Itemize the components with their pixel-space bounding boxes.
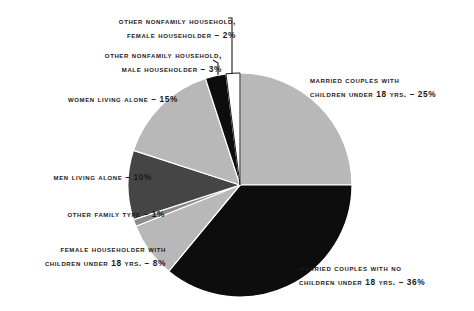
slice-label-nonfamily-female: Other nonfamily household, female househ… — [0, 15, 236, 42]
slice-label-other-family-line1: Other family type – 1% — [0, 208, 165, 222]
slice-label-nonfamily-male: Other nonfamily household, male househol… — [0, 49, 222, 76]
slice-label-women-alone: Women living alone – 15% — [0, 93, 178, 107]
slice-label-female-children-line2: children under 18 yrs. – 8% — [0, 257, 166, 271]
pie-chart-figure: Other nonfamily household, female househ… — [0, 0, 474, 311]
slice-label-married-children-line1: Married couples with — [310, 74, 474, 88]
slice-label-nonfamily-male-line1: Other nonfamily household, — [0, 49, 222, 63]
slice-label-men-alone-line1: Men living alone – 10% — [0, 171, 152, 185]
slice-label-married-nochild: Married couples with no children under 1… — [299, 262, 474, 289]
slice-label-female-children: Female householder with children under 1… — [0, 243, 166, 270]
slice-label-women-alone-line1: Women living alone – 15% — [0, 93, 178, 107]
slice-label-nonfamily-female-line1: Other nonfamily household, — [0, 15, 236, 29]
slice-label-nonfamily-female-line2: female householder – 2% — [0, 29, 236, 43]
slice-label-married-nochild-line1: Married couples with no — [299, 262, 474, 276]
slice-label-other-family: Other family type – 1% — [0, 208, 165, 222]
slice-label-married-nochild-line2: children under 18 yrs. – 36% — [299, 276, 474, 290]
slice-label-married-children: Married couples with children under 18 y… — [310, 74, 474, 101]
slice-label-nonfamily-male-line2: male householder – 3% — [0, 63, 222, 77]
slice-label-men-alone: Men living alone – 10% — [0, 171, 152, 185]
slice-label-married-children-line2: children under 18 yrs. – 25% — [310, 88, 474, 102]
slice-label-female-children-line1: Female householder with — [0, 243, 166, 257]
